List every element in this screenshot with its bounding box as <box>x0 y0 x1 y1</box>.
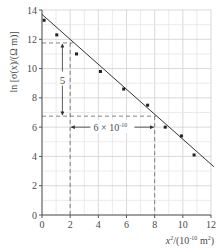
data-point <box>75 52 78 55</box>
chart: 02468101202468101214 56 × 10-10 ln [σ(x)… <box>0 0 224 252</box>
y-tick-label: 0 <box>32 210 37 221</box>
data-point <box>180 134 183 137</box>
x-tick-label: 10 <box>178 219 188 230</box>
data-point <box>164 126 167 129</box>
run-label-exponent: -10 <box>119 122 127 128</box>
grid-lines <box>42 10 211 215</box>
data-point <box>43 19 46 22</box>
annotations: 56 × 10-10 <box>57 44 153 133</box>
x-tick-label: 6 <box>124 219 129 230</box>
y-tick-label: 14 <box>27 5 37 16</box>
x-tick-label: 12 <box>206 219 216 230</box>
plot-area: 02468101202468101214 56 × 10-10 ln [σ(x)… <box>0 0 224 252</box>
fit-line <box>42 14 214 166</box>
x-tick-label: 0 <box>40 219 45 230</box>
regression-line <box>42 14 214 166</box>
y-tick-label: 2 <box>32 180 37 191</box>
x-axis-label: x2/(10-10 m2) <box>165 235 214 247</box>
y-tick-label: 4 <box>32 151 37 162</box>
rise-label: 5 <box>60 74 66 86</box>
y-tick-label: 6 <box>32 122 37 133</box>
y-axis-label: ln [σ(x)/(Ω m)] <box>8 31 20 92</box>
y-tick-label: 12 <box>27 34 37 45</box>
data-point <box>122 88 125 91</box>
y-tick-label: 10 <box>27 63 37 74</box>
axes: 02468101202468101214 <box>27 5 216 231</box>
data-point <box>146 104 149 107</box>
x-tick-label: 4 <box>96 219 101 230</box>
data-point <box>193 153 196 156</box>
x-tick-label: 8 <box>152 219 157 230</box>
data-point <box>55 33 58 36</box>
data-point <box>99 70 102 73</box>
y-tick-label: 8 <box>32 92 37 103</box>
x-tick-label: 2 <box>68 219 73 230</box>
